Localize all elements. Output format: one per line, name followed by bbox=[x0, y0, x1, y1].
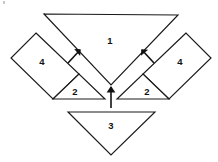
diagram-canvas: 1 4 4 2 2 3 bbox=[0, 0, 218, 162]
piece-1-label: 1 bbox=[107, 35, 113, 46]
piece-4-left-label: 4 bbox=[39, 56, 45, 67]
piece-2-left-label: 2 bbox=[72, 86, 77, 97]
scan-speck bbox=[3, 1, 5, 4]
piece-4-right-label: 4 bbox=[177, 56, 183, 67]
piece-3-label: 3 bbox=[108, 120, 113, 131]
piece-2-right-label: 2 bbox=[144, 86, 149, 97]
tangram-assembly-diagram: 1 4 4 2 2 3 bbox=[0, 0, 218, 162]
